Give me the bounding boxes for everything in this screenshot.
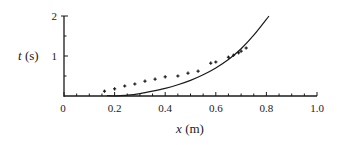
x-tick-label: 0.4: [158, 102, 172, 114]
tick-labels: 00.20.40.60.81.012: [52, 10, 325, 114]
data-point: [245, 46, 248, 49]
x-tick-label: 0.6: [209, 102, 223, 114]
y-axis-unit: (s): [22, 48, 39, 63]
data-point: [153, 78, 156, 81]
data-point: [209, 62, 212, 65]
data-point: [113, 87, 116, 90]
data-point: [164, 75, 167, 78]
chart: 00.20.40.60.81.012 t (s) x (m): [0, 0, 341, 145]
data-point: [196, 70, 199, 73]
x-axis-label: x (m): [175, 121, 204, 136]
data-point: [214, 60, 217, 63]
data-point: [133, 82, 136, 85]
y-tick-label: 1: [52, 50, 58, 62]
axes: [64, 16, 317, 97]
y-tick-label: 2: [52, 10, 58, 22]
model-curve: [107, 16, 269, 96]
data-point: [103, 90, 106, 93]
data-point: [143, 80, 146, 83]
ticks: [61, 16, 317, 96]
x-tick-label: 0.2: [108, 102, 122, 114]
data-point: [186, 72, 189, 75]
data-point: [176, 74, 179, 77]
x-axis-unit: (m): [182, 121, 204, 136]
y-axis-label: t (s): [18, 48, 39, 63]
x-tick-label: 0: [60, 102, 66, 114]
data-point: [123, 84, 126, 87]
x-tick-label: 1.0: [310, 102, 324, 114]
x-tick-label: 0.8: [260, 102, 274, 114]
